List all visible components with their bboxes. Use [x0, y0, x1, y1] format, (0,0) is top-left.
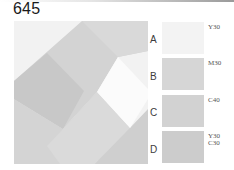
swatch-c — [162, 95, 204, 127]
swatch-letter-c: C — [150, 108, 157, 118]
swatch-b — [162, 58, 204, 90]
color-composition — [14, 21, 148, 164]
swatch-code-b: M30 — [208, 60, 221, 67]
swatch-d — [162, 131, 204, 163]
swatch-letter-b: B — [150, 72, 157, 82]
swatch-a — [162, 22, 204, 54]
swatch-letter-a: A — [150, 35, 157, 45]
composition-graphic — [14, 21, 148, 164]
swatch-code-d-line2: C30 — [208, 140, 220, 147]
swatch-code-c: C40 — [208, 97, 220, 104]
swatch-code-a: Y30 — [208, 24, 220, 31]
swatch-letter-d: D — [150, 145, 157, 155]
plate-number: 645 — [13, 1, 40, 17]
